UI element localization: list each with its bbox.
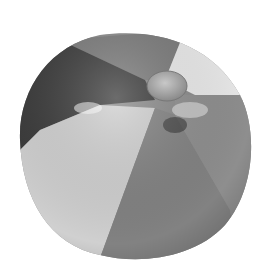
beach-ball-photo: [0, 0, 258, 279]
valve-cap: [147, 71, 187, 101]
beach-ball-illustration: [0, 0, 258, 279]
